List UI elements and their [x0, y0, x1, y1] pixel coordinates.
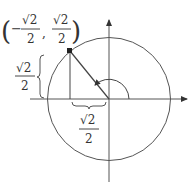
point-marker	[67, 48, 72, 53]
angle-arc	[95, 79, 129, 99]
svg-text:,: ,	[42, 26, 46, 40]
svg-text:2: 2	[58, 32, 66, 46]
horizontal-leg-label: √2 2	[79, 113, 99, 146]
svg-text:√2: √2	[80, 113, 95, 127]
svg-text:√2: √2	[22, 13, 37, 27]
point-coordinate-label: ( − √2 2 , √2 2 )	[1, 13, 81, 46]
svg-text:2: 2	[27, 32, 35, 46]
vertical-brace	[37, 55, 44, 98]
svg-text:2: 2	[85, 132, 93, 146]
svg-text:2: 2	[21, 79, 29, 93]
svg-text:(: (	[1, 16, 11, 46]
vertical-leg-label: √2 2	[15, 61, 35, 93]
svg-text:−: −	[11, 21, 22, 36]
radius-line	[70, 51, 109, 99]
svg-text:√2: √2	[16, 61, 31, 75]
svg-text:√2: √2	[53, 13, 68, 27]
horizontal-brace	[72, 102, 106, 109]
unit-circle-diagram: ( − √2 2 , √2 2 ) √2 2 √2 2	[0, 0, 195, 182]
svg-text:): )	[71, 16, 81, 46]
